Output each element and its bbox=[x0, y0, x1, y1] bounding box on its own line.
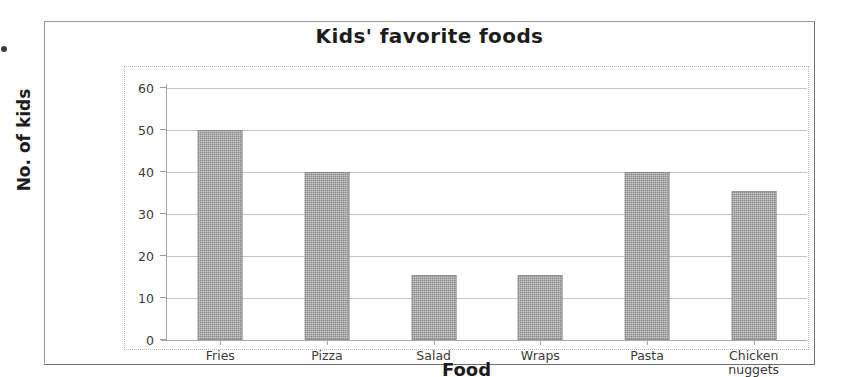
bar bbox=[411, 275, 456, 340]
x-tick-mark bbox=[327, 340, 328, 345]
y-tick-mark bbox=[160, 213, 167, 214]
y-tick-label: 10 bbox=[138, 291, 154, 306]
y-tick-mark bbox=[160, 297, 167, 298]
chart-frame: Kids' favorite foods 0102030405060 Fries… bbox=[44, 21, 815, 365]
x-axis-title: Food bbox=[124, 359, 809, 377]
y-tick-mark bbox=[160, 87, 167, 88]
bar-slot: Wraps bbox=[487, 88, 594, 340]
bar bbox=[625, 172, 670, 340]
y-tick-label: 0 bbox=[146, 333, 154, 348]
plot-inner: 0102030405060 FriesPizzaSaladWrapsPastaC… bbox=[167, 88, 807, 340]
y-tick-label: 20 bbox=[138, 249, 154, 264]
x-tick-mark bbox=[540, 340, 541, 345]
y-tick-label: 30 bbox=[138, 207, 154, 222]
x-tick-mark bbox=[220, 340, 221, 345]
bar bbox=[198, 130, 243, 340]
y-tick-mark bbox=[160, 129, 167, 130]
y-tick-label: 50 bbox=[138, 123, 154, 138]
bar-slot: Pasta bbox=[594, 88, 701, 340]
bar-slot: Fries bbox=[167, 88, 274, 340]
y-tick-mark bbox=[160, 255, 167, 256]
y-tick-mark bbox=[160, 339, 167, 340]
bar-slot: Salad bbox=[380, 88, 487, 340]
bar bbox=[731, 191, 776, 340]
y-axis-title: No. of kids bbox=[14, 65, 34, 215]
x-tick-mark bbox=[434, 340, 435, 345]
bar-slot: Pizza bbox=[274, 88, 381, 340]
bars-group: FriesPizzaSaladWrapsPastaChickennuggets bbox=[167, 88, 807, 340]
y-tick-label: 40 bbox=[138, 165, 154, 180]
x-tick-mark bbox=[754, 340, 755, 345]
bar bbox=[305, 172, 350, 340]
chart-title: Kids' favorite foods bbox=[45, 24, 814, 48]
bar-slot: Chickennuggets bbox=[700, 88, 807, 340]
x-tick-mark bbox=[647, 340, 648, 345]
bar bbox=[518, 275, 563, 340]
y-tick-label: 60 bbox=[138, 81, 154, 96]
gridline bbox=[167, 340, 807, 341]
scan-artifact-dot bbox=[1, 46, 7, 52]
y-tick-mark bbox=[160, 171, 167, 172]
